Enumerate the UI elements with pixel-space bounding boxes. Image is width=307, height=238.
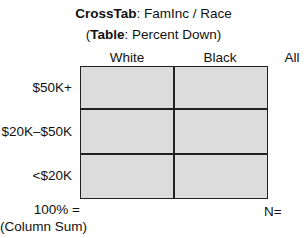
diagram-subtitle: (Table: Percent Down) (0, 27, 307, 42)
cell-white-50k-plus (81, 67, 173, 108)
column-sum-label: 100% = (0, 202, 80, 217)
cell-black-50k-plus (175, 67, 267, 108)
crosstab-grid (80, 66, 268, 199)
cell-black-20k-50k (175, 110, 267, 153)
column-header-black: Black (173, 50, 267, 65)
column-header-white: White (80, 50, 174, 65)
column-sum-sublabel: (Column Sum) (0, 219, 80, 234)
row-label-under-20k: <$20K (0, 168, 72, 183)
column-header-all: All (278, 50, 306, 65)
diagram-title: CrossTab: FamInc / Race (0, 6, 307, 21)
cell-black-under-20k (175, 155, 267, 198)
row-label-50k-plus: $50K+ (0, 80, 72, 95)
cell-white-under-20k (81, 155, 173, 198)
row-label-20k-50k: $20K–$50K (0, 124, 72, 139)
n-label: N= (264, 204, 282, 219)
cell-white-20k-50k (81, 110, 173, 153)
